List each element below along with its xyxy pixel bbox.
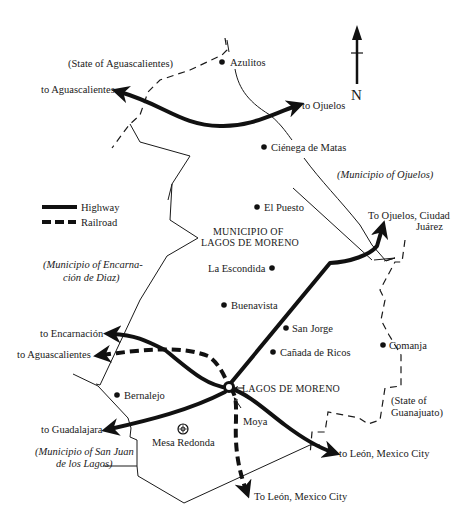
- dest-to-ojuelos-juarez-2: Juárez: [416, 221, 443, 232]
- municipio-boundary-east: [293, 188, 395, 261]
- legend-highway-label: Highway: [81, 202, 120, 213]
- lagos-de-moreno-city-icon: [223, 381, 235, 393]
- capital-lagos-de-moreno: LAGOS DE MORENO: [242, 383, 340, 394]
- town-azulitos: Azulitos: [230, 57, 266, 68]
- dest-to-leon-highway: to León, Mexico City: [339, 448, 430, 459]
- town-cienega-de-matas: Ciénega de Matas: [271, 142, 346, 153]
- map-lagos-de-moreno: N Highway Railroad (State of Aguascalien…: [0, 0, 467, 529]
- region-municipio-encarnacion-2: ción de Diaz): [63, 272, 120, 284]
- town-comanja: Comanja: [389, 340, 427, 351]
- region-municipio-lagos-2: LAGOS DE MORENO: [201, 237, 299, 248]
- town-dot-la-escondida: [269, 265, 275, 271]
- region-municipio-ojuelos: (Municipio of Ojuelos): [337, 169, 434, 181]
- landmark-mesa-redonda: Mesa Redonda: [152, 437, 215, 448]
- town-dot-san-jorge: [283, 325, 289, 331]
- town-dot-buenavista: [221, 302, 227, 308]
- town-dot-azulitos: [219, 59, 225, 65]
- town-san-jorge: San Jorge: [292, 323, 333, 334]
- dest-to-leon-rail: To León, Mexico City: [254, 491, 348, 502]
- town-dot-el-puesto: [254, 204, 260, 210]
- highway-encarnacion: [112, 334, 228, 388]
- mesa-redonda-symbol-icon: [178, 424, 188, 434]
- town-moya: Moya: [243, 416, 268, 427]
- region-state-guanajuato-2: Guanajuato): [391, 407, 443, 419]
- town-buenavista: Buenavista: [231, 300, 278, 311]
- town-canada-de-ricos: Cañada de Ricos: [280, 347, 351, 358]
- legend: Highway Railroad: [42, 202, 120, 228]
- town-dot-canada-de-ricos: [270, 349, 276, 355]
- north-label: N: [351, 87, 362, 103]
- region-state-guanajuato-1: (State of: [391, 395, 427, 407]
- town-la-escondida: La Escondida: [208, 263, 266, 274]
- region-municipio-encarnacion-1: (Municipio of Encarna-: [43, 259, 143, 271]
- dest-to-ojuelos-juarez-1: To Ojuelos, Ciudad: [368, 210, 451, 221]
- town-bernalejo: Bernalejo: [124, 390, 165, 401]
- region-municipio-lagos-1: MUNICIPIO OF: [213, 226, 284, 237]
- legend-railroad-label: Railroad: [81, 217, 118, 228]
- north-arrow-icon: [351, 25, 363, 84]
- town-dot-cienega: [261, 144, 267, 150]
- region-municipio-san-juan-1: (Municipio of San Juan: [35, 446, 134, 458]
- dest-to-guadalajara: to Guadalajara: [41, 424, 103, 435]
- town-dot-bernalejo: [114, 392, 120, 398]
- town-el-puesto: El Puesto: [264, 202, 304, 213]
- dest-to-encarnacion: to Encarnación: [40, 328, 104, 339]
- region-municipio-san-juan-2: de los Lagos): [56, 458, 113, 470]
- dest-to-aguascalientes-rail: to Aguascalientes: [17, 349, 91, 360]
- town-dot-comanja: [380, 342, 386, 348]
- dest-to-ojuelos: to Ojuelos: [302, 100, 345, 111]
- dest-to-aguascalientes-north: to Aguascalientes: [41, 84, 115, 95]
- region-state-aguascalientes: (State of Aguascalientes): [68, 58, 173, 70]
